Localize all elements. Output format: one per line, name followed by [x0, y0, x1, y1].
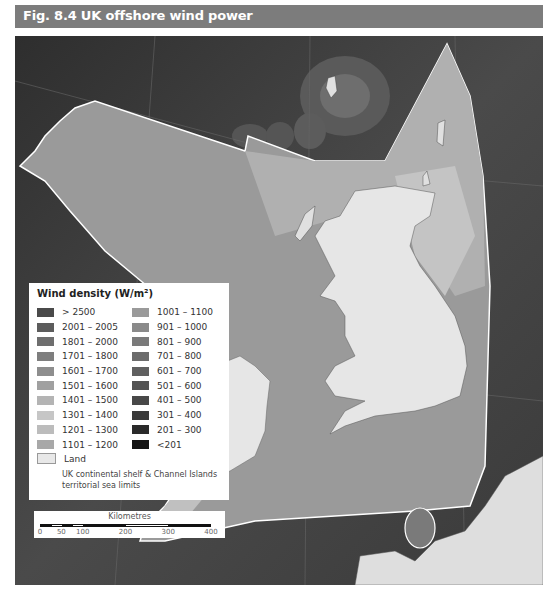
legend-land-row: Land [37, 453, 86, 464]
legend-swatch [132, 308, 149, 317]
legend-swatch [37, 440, 54, 449]
legend-item: 1301 – 1400 [37, 408, 118, 423]
legend-item: > 2500 [37, 305, 118, 320]
scale-bar-panel: Kilometres 050100200300400 [34, 511, 225, 538]
scale-tick-label: 0 [38, 528, 42, 536]
legend-label: 1801 – 2000 [62, 337, 118, 347]
legend-swatch [37, 381, 54, 390]
legend-label: <201 [157, 440, 182, 450]
legend-swatch [132, 323, 149, 332]
legend-label: 1701 – 1800 [62, 351, 118, 361]
scale-tick-label: 400 [204, 528, 217, 536]
figure-title: Fig. 8.4 UK offshore wind power [23, 8, 253, 23]
legend-title: Wind density (W/m²) [37, 288, 153, 299]
legend-label: 201 – 300 [157, 425, 202, 435]
land-label: Land [64, 454, 86, 464]
legend-item: 1701 – 1800 [37, 349, 118, 364]
legend-label: 301 – 400 [157, 410, 202, 420]
scale-title: Kilometres [34, 512, 225, 521]
legend-label: > 2500 [62, 307, 95, 317]
shelf-limits-label: UK continental shelf & Channel Islands t… [62, 469, 227, 491]
legend-swatch [132, 411, 149, 420]
legend-swatch [132, 396, 149, 405]
legend-item: 1401 – 1500 [37, 393, 118, 408]
legend-swatch [37, 411, 54, 420]
legend-label: 1401 – 1500 [62, 395, 118, 405]
legend-item: 301 – 400 [132, 408, 213, 423]
legend-label: 601 – 700 [157, 366, 202, 376]
legend-panel: Wind density (W/m²) > 25002001 – 2005180… [29, 283, 229, 500]
legend-item: 601 – 700 [132, 364, 213, 379]
legend-left-column: > 25002001 – 20051801 – 20001701 – 18001… [37, 305, 118, 452]
figure-header: Fig. 8.4 UK offshore wind power [15, 5, 543, 28]
legend-label: 701 – 800 [157, 351, 202, 361]
legend-label: 401 – 500 [157, 395, 202, 405]
legend-swatch [132, 367, 149, 376]
legend-label: 1601 – 1700 [62, 366, 118, 376]
legend-item: 401 – 500 [132, 393, 213, 408]
legend-right-column: 1001 – 1100901 – 1000801 – 900701 – 8006… [132, 305, 213, 452]
legend-item: 701 – 800 [132, 349, 213, 364]
scale-tick-label: 100 [76, 528, 89, 536]
legend-label: 501 – 600 [157, 381, 202, 391]
legend-item: 1101 – 1200 [37, 437, 118, 452]
legend-label: 1201 – 1300 [62, 425, 118, 435]
legend-swatch [37, 352, 54, 361]
channel-islands-limit [405, 508, 435, 548]
scale-bar [40, 524, 211, 527]
legend-label: 1301 – 1400 [62, 410, 118, 420]
legend-label: 801 – 900 [157, 337, 202, 347]
legend-item: 801 – 900 [132, 334, 213, 349]
legend-label: 1001 – 1100 [157, 307, 213, 317]
legend-item: 1001 – 1100 [132, 305, 213, 320]
land-swatch [37, 453, 56, 464]
legend-item: 901 – 1000 [132, 320, 213, 335]
legend-swatch [37, 323, 54, 332]
legend-item: 1601 – 1700 [37, 364, 118, 379]
legend-item: 1501 – 1600 [37, 378, 118, 393]
legend-item: <201 [132, 437, 213, 452]
legend-label: 1501 – 1600 [62, 381, 118, 391]
legend-label: 2001 – 2005 [62, 322, 118, 332]
legend-label: 1101 – 1200 [62, 440, 118, 450]
legend-item: 1801 – 2000 [37, 334, 118, 349]
scale-tick-label: 50 [57, 528, 66, 536]
legend-label: 901 – 1000 [157, 322, 207, 332]
legend-swatch [37, 337, 54, 346]
scale-tick-label: 200 [119, 528, 132, 536]
legend-swatch [37, 308, 54, 317]
legend-item: 2001 – 2005 [37, 320, 118, 335]
legend-swatch [132, 337, 149, 346]
legend-swatch [132, 352, 149, 361]
legend-item: 201 – 300 [132, 423, 213, 438]
legend-swatch [132, 425, 149, 434]
legend-item: 501 – 600 [132, 378, 213, 393]
legend-swatch [132, 440, 149, 449]
legend-swatch [37, 425, 54, 434]
legend-swatch [37, 367, 54, 376]
scale-tick-label: 300 [162, 528, 175, 536]
legend-swatch [37, 396, 54, 405]
legend-swatch [132, 381, 149, 390]
legend-item: 1201 – 1300 [37, 423, 118, 438]
